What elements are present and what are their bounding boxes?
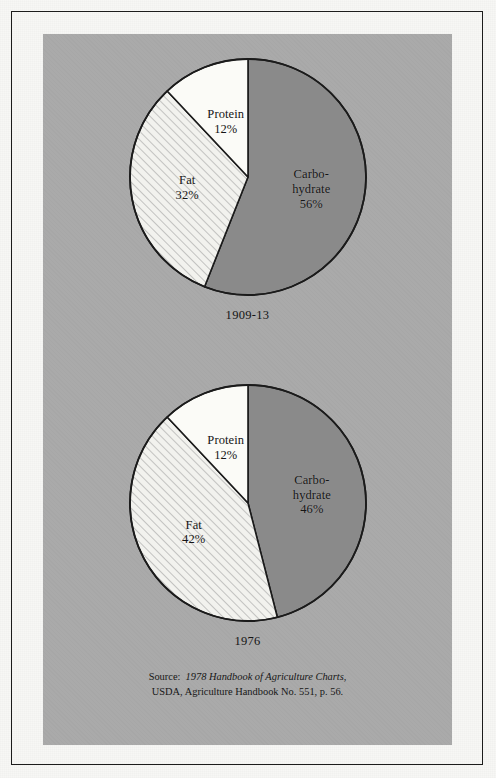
source-note-prefix: Source:	[149, 671, 186, 682]
pie-wrap-0: Carbo- hydrate 56% Fat 32% Protein 12%	[43, 56, 452, 304]
pie-chart-1909-13: Carbo- hydrate 56% Fat 32% Protein 12% 1…	[43, 56, 452, 323]
slice-label-fat: Fat 32%	[176, 174, 199, 204]
slice-label-protein: Protein 12%	[207, 107, 244, 137]
pie-year-label-0: 1909-13	[43, 308, 452, 323]
source-note-line-2: USDA, Agriculture Handbook No. 551, p. 5…	[43, 685, 452, 700]
slice-label-protein: Protein 12%	[207, 433, 244, 463]
pie-wrap-1: Carbo- hydrate 46% Fat 42% Protein 12%	[43, 382, 452, 630]
slice-label-carbohydrate: Carbo- hydrate 56%	[292, 167, 330, 211]
pie-graphic-0	[123, 56, 373, 304]
source-note-title: 1978 Handbook of Agriculture Charts	[186, 671, 344, 682]
slice-label-carbohydrate: Carbo- hydrate 46%	[293, 473, 331, 517]
pie-chart-1976: Carbo- hydrate 46% Fat 42% Protein 12% 1…	[43, 382, 452, 649]
slice-label-fat: Fat 42%	[182, 518, 205, 548]
scanned-page: Carbo- hydrate 56% Fat 32% Protein 12% 1…	[0, 0, 496, 778]
source-note-line-1: Source: 1978 Handbook of Agriculture Cha…	[43, 670, 452, 685]
chart-panel: Carbo- hydrate 56% Fat 32% Protein 12% 1…	[43, 34, 452, 745]
source-note-comma: ,	[344, 671, 347, 682]
pie-year-label-1: 1976	[43, 634, 452, 649]
source-note: Source: 1978 Handbook of Agriculture Cha…	[43, 670, 452, 700]
pie-graphic-1	[123, 382, 373, 630]
